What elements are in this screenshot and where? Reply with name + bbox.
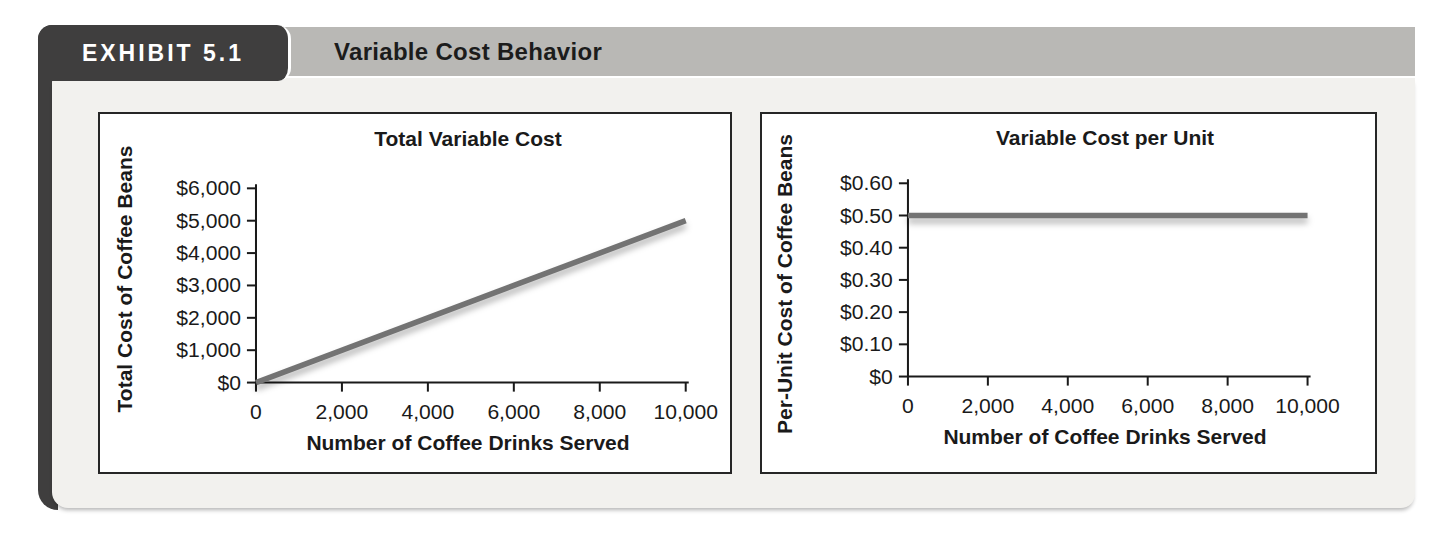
x-tick-label: 4,000: [401, 400, 454, 423]
chart-title: Variable Cost per Unit: [996, 126, 1214, 150]
y-tick-label: $0.60: [840, 171, 893, 194]
exhibit-badge: EXHIBIT 5.1: [38, 25, 291, 81]
x-tick-label: 8,000: [1201, 394, 1254, 417]
y-tick-label: $2,000: [176, 306, 241, 329]
axes: [908, 179, 1311, 376]
y-tick-label: $5,000: [176, 209, 241, 232]
x-tick-label: 2,000: [315, 400, 368, 423]
variable-cost-per-unit-plot: $0$0.10$0.20$0.30$0.40$0.50$0.6002,0004,…: [762, 114, 1375, 472]
total-variable-cost-plot: $0$1,000$2,000$3,000$4,000$5,000$6,00002…: [100, 114, 730, 472]
x-tick-label: 2,000: [961, 394, 1014, 417]
y-tick-label: $0.30: [840, 268, 893, 291]
x-tick-label: 6,000: [487, 400, 540, 423]
y-axis-label: Per-Unit Cost of Coffee Beans: [773, 134, 797, 434]
x-tick-label: 6,000: [1121, 394, 1174, 417]
total-variable-cost-chart: $0$1,000$2,000$3,000$4,000$5,000$6,00002…: [98, 112, 732, 474]
x-axis-label: Number of Coffee Drinks Served: [306, 431, 629, 455]
y-tick-label: $3,000: [176, 273, 241, 296]
exhibit-title-bar: Variable Cost Behavior: [256, 27, 1415, 76]
x-axis-label: Number of Coffee Drinks Served: [943, 425, 1266, 449]
page: { "header": { "exhibit_label": "EXHIBIT …: [0, 0, 1452, 542]
y-tick-label: $0: [869, 365, 893, 388]
cost-line: [256, 221, 686, 383]
x-tick-label: 10,000: [1275, 394, 1340, 417]
x-tick-label: 0: [250, 400, 262, 423]
y-tick-label: $1,000: [176, 338, 241, 361]
x-tick-label: 0: [902, 394, 914, 417]
y-tick-label: $0: [217, 371, 241, 394]
axes: [256, 184, 689, 382]
y-tick-label: $6,000: [176, 176, 241, 199]
y-tick-label: $0.40: [840, 236, 893, 259]
y-tick-label: $0.20: [840, 300, 893, 323]
y-axis-label: Total Cost of Coffee Beans: [113, 146, 137, 413]
exhibit-container: Variable Cost Behavior EXHIBIT 5.1 $0$1,…: [38, 25, 1415, 510]
y-tick-label: $0.50: [840, 204, 893, 227]
exhibit-badge-label: EXHIBIT 5.1: [82, 40, 244, 67]
x-tick-label: 10,000: [653, 400, 718, 423]
variable-cost-per-unit-chart: $0$0.10$0.20$0.30$0.40$0.50$0.6002,0004,…: [760, 112, 1377, 474]
y-tick-label: $4,000: [176, 241, 241, 264]
exhibit-title: Variable Cost Behavior: [256, 27, 1415, 76]
x-tick-label: 4,000: [1041, 394, 1094, 417]
x-tick-label: 8,000: [573, 400, 626, 423]
y-tick-label: $0.10: [840, 332, 893, 355]
chart-title: Total Variable Cost: [374, 127, 562, 151]
